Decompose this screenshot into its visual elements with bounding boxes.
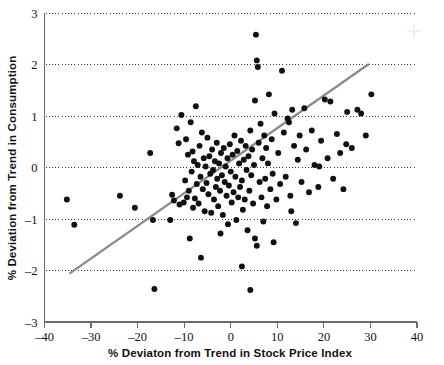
data-point <box>271 239 277 245</box>
data-point <box>244 167 250 173</box>
data-point <box>358 110 364 116</box>
data-point <box>200 186 206 192</box>
data-point <box>287 193 293 199</box>
data-point <box>227 141 233 147</box>
x-tick-label: 20 <box>318 330 331 344</box>
x-tick-label: 0 <box>228 330 234 344</box>
data-point <box>232 133 238 139</box>
data-point <box>188 119 194 125</box>
data-point <box>231 189 237 195</box>
data-point <box>184 194 190 200</box>
data-point <box>186 188 192 194</box>
data-point <box>266 91 272 97</box>
data-point <box>221 145 227 151</box>
data-point <box>194 181 200 187</box>
scatter-points <box>64 32 374 293</box>
data-point <box>241 157 247 163</box>
data-point <box>255 64 261 70</box>
data-point <box>178 112 184 118</box>
y-axis-title: % Deviation from Trend in Consumption <box>6 56 18 281</box>
data-point <box>219 172 225 178</box>
data-point <box>249 147 255 153</box>
data-point <box>71 222 77 228</box>
data-point <box>263 145 269 151</box>
data-point <box>193 103 199 109</box>
data-point <box>288 208 294 214</box>
data-point <box>254 243 260 249</box>
data-point <box>198 255 204 261</box>
data-point <box>286 119 292 125</box>
data-point <box>176 140 182 146</box>
data-point <box>265 160 271 166</box>
data-point <box>247 127 253 133</box>
data-point <box>195 162 201 168</box>
y-tick-label: 0 <box>31 161 37 175</box>
data-point <box>223 164 229 170</box>
data-point <box>196 201 202 207</box>
data-point <box>253 32 259 38</box>
data-point <box>206 153 212 159</box>
data-point <box>229 200 235 206</box>
x-tick-label: 30 <box>364 330 377 344</box>
data-point <box>272 110 278 116</box>
data-point <box>334 131 340 137</box>
data-point <box>151 286 157 292</box>
data-point <box>243 143 249 149</box>
data-point <box>252 236 258 242</box>
data-point <box>322 97 328 103</box>
x-tick-label: –10 <box>174 330 194 344</box>
data-point <box>297 133 303 139</box>
data-point <box>225 221 231 227</box>
y-tick-label: 2 <box>31 58 37 72</box>
data-point <box>197 143 203 149</box>
data-point <box>262 176 268 182</box>
data-point <box>318 138 324 144</box>
data-point <box>277 181 283 187</box>
data-point <box>171 197 177 203</box>
data-point <box>220 212 226 218</box>
data-point <box>254 57 260 63</box>
data-point <box>169 192 175 198</box>
data-point <box>301 105 307 111</box>
data-point <box>182 177 188 183</box>
data-point <box>256 140 262 146</box>
data-point <box>174 125 180 131</box>
data-point <box>216 160 222 166</box>
scatter-plot-figure: –40–30–20–10010203040–3–2–10123 % Deviat… <box>0 0 444 365</box>
data-point <box>327 99 333 105</box>
data-point <box>183 136 189 142</box>
data-point <box>259 194 265 200</box>
data-point <box>198 174 204 180</box>
trend-line <box>70 65 368 274</box>
data-point <box>363 133 369 139</box>
data-point <box>192 195 198 201</box>
data-point <box>187 236 193 242</box>
data-point <box>190 149 196 155</box>
chart-canvas: –40–30–20–10010203040–3–2–10123 % Deviat… <box>0 0 444 365</box>
data-point <box>209 147 215 153</box>
data-point <box>257 179 263 185</box>
data-point <box>228 169 234 175</box>
corner-artifact-icon <box>407 24 421 38</box>
data-point <box>315 184 321 190</box>
x-tick-label: –20 <box>127 330 147 344</box>
data-point <box>248 172 254 178</box>
data-point <box>247 287 253 293</box>
data-point <box>233 217 239 223</box>
y-tick-label: 1 <box>31 110 37 124</box>
data-point <box>214 140 220 146</box>
data-point <box>270 171 276 177</box>
data-point <box>150 217 156 223</box>
data-point <box>245 153 251 159</box>
data-point <box>343 141 349 147</box>
y-tick-label: –3 <box>24 316 38 330</box>
data-point <box>275 150 281 156</box>
data-point <box>330 176 336 182</box>
data-point <box>368 91 374 97</box>
data-point <box>344 109 350 115</box>
data-point <box>189 169 195 175</box>
data-point <box>224 193 230 199</box>
data-point <box>289 107 295 113</box>
data-point <box>202 208 208 214</box>
data-point <box>293 220 299 226</box>
